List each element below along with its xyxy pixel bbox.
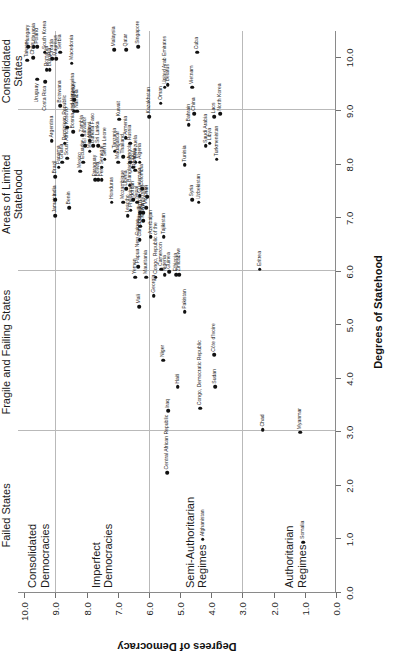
data-point-label: Rwanda	[132, 148, 137, 167]
data-point-label: Iran	[145, 185, 150, 194]
scatter-plot-figure: Degrees of Statehood Degrees of Democrac…	[0, 0, 413, 667]
data-point-label: Niger	[160, 345, 165, 357]
x-tick-label: 5.0	[344, 319, 355, 333]
x-tick	[336, 538, 341, 539]
y-tick-label: 8.0	[81, 602, 92, 667]
data-point	[298, 431, 302, 435]
data-point-label: Cuba	[195, 37, 200, 49]
data-point	[145, 275, 149, 279]
data-point-label: Tunisia	[182, 145, 187, 161]
data-point	[136, 45, 140, 49]
y-tick-label: 9.0	[50, 602, 61, 667]
data-point-label: Libya	[207, 128, 212, 140]
data-point	[110, 200, 114, 204]
data-point	[103, 158, 107, 162]
data-point-label: Argentina	[49, 116, 54, 138]
y-tick-label: 1.0	[299, 602, 310, 667]
data-point	[149, 235, 153, 239]
y-tick	[274, 593, 275, 598]
data-point-label: Armenia	[123, 116, 128, 135]
data-point-label: Malaysia	[111, 26, 116, 46]
data-point	[167, 270, 171, 274]
statehood-band-label: Consolidated States	[0, 39, 25, 103]
democracy-band-label: Imperfect Democracies	[90, 524, 115, 588]
data-point-label: China	[192, 97, 197, 110]
data-point	[213, 353, 217, 357]
x-tick-label: 4.0	[344, 372, 355, 386]
data-point	[178, 273, 182, 277]
data-point	[146, 195, 150, 199]
data-point	[72, 130, 76, 134]
data-point	[197, 200, 201, 204]
data-point	[65, 157, 69, 161]
data-point	[165, 471, 169, 475]
data-point	[301, 540, 305, 544]
data-point-label: Chad	[260, 414, 265, 426]
data-point-label: Algeria	[137, 143, 142, 159]
data-point	[70, 61, 74, 65]
data-point	[58, 51, 62, 55]
y-tick-label: 5.0	[175, 602, 186, 667]
data-point-label: Somalia	[301, 521, 306, 539]
data-point	[192, 112, 196, 116]
data-point	[183, 163, 187, 167]
data-point	[190, 85, 194, 89]
data-point	[57, 166, 61, 170]
x-tick-label: 0.0	[344, 586, 355, 600]
data-point-label: Yemen	[132, 258, 137, 274]
data-point	[166, 409, 170, 413]
data-point-label: Poland	[35, 28, 40, 44]
x-tick	[336, 324, 341, 325]
data-point-label: Zimbabwe	[177, 248, 182, 272]
y-tick	[305, 593, 306, 598]
x-tick	[336, 485, 341, 486]
data-point-label: Vietnam	[189, 65, 194, 84]
data-point	[117, 160, 121, 164]
data-point-label: Iraq	[166, 399, 171, 408]
data-point	[133, 275, 137, 279]
data-point	[26, 59, 30, 63]
data-point	[54, 198, 58, 202]
data-point	[160, 267, 164, 271]
data-point-label: Uruguay	[35, 83, 40, 102]
y-tick	[211, 593, 212, 598]
data-point-label: Cameroon	[159, 242, 164, 266]
data-point	[187, 123, 191, 127]
data-point	[132, 198, 136, 202]
data-point-label: Mauritania	[144, 250, 149, 274]
data-point-label: Kazakhstan	[146, 87, 151, 114]
data-point-label: Haiti	[175, 374, 180, 384]
data-point-label: Uzbekistan	[196, 174, 201, 199]
x-tick	[336, 110, 341, 111]
data-point	[126, 214, 130, 218]
data-point-label: Macedonia	[69, 35, 74, 60]
rotated-figure-wrapper: Degrees of Statehood Degrees of Democrac…	[0, 0, 413, 667]
y-tick	[24, 593, 25, 598]
data-point-label: Jordan	[131, 181, 136, 197]
data-point	[118, 118, 122, 122]
x-tick-label: 9.0	[344, 105, 355, 119]
data-point	[138, 238, 142, 242]
y-tick	[87, 593, 88, 598]
data-point	[125, 48, 129, 52]
y-tick-label: 10.0	[19, 602, 30, 667]
democracy-band-label: Consolidated Democracies	[26, 524, 51, 588]
data-point	[195, 51, 199, 55]
y-tick-label: 0.0	[331, 602, 342, 667]
y-tick-label: 7.0	[112, 602, 123, 667]
data-point-label: Pakistan	[182, 289, 187, 309]
statehood-band-label: Failed States	[0, 483, 12, 547]
x-tick-label: 2.0	[344, 479, 355, 493]
data-point-label: Qatar	[124, 34, 129, 47]
data-point-label: Sierra Leone	[102, 127, 107, 156]
y-tick-label: 6.0	[143, 602, 154, 667]
data-point-label: South Africa	[65, 128, 70, 155]
x-tick-label: 3.0	[344, 426, 355, 440]
data-point	[68, 206, 72, 210]
y-tick	[242, 593, 243, 598]
y-tick	[180, 593, 181, 598]
data-point	[124, 136, 128, 140]
x-tick-label: 1.0	[344, 533, 355, 547]
data-point	[92, 144, 96, 148]
data-point	[54, 57, 58, 61]
